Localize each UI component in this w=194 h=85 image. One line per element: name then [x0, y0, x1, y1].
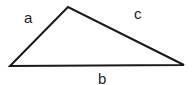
side-label-b: b	[98, 70, 106, 85]
side-label-a: a	[24, 9, 33, 26]
triangle-diagram: a c b	[0, 0, 194, 85]
triangle-shape	[10, 7, 184, 66]
triangle-svg: a c b	[0, 0, 194, 85]
side-label-c: c	[134, 5, 142, 22]
